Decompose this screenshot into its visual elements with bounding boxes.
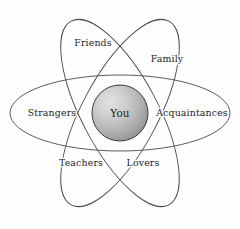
orbit-label-teachers: Teachers <box>59 157 103 168</box>
orbit-label-acquaintances: Acquaintances <box>155 107 228 118</box>
atom-orbit-illustration: You Friends Family Strangers Acquaintanc… <box>0 0 240 229</box>
orbit-diagram-canvas: You Friends Family Strangers Acquaintanc… <box>0 0 240 229</box>
orbit-label-strangers: Strangers <box>28 107 77 118</box>
nucleus-label-you: You <box>109 107 130 119</box>
orbit-label-family: Family <box>151 53 184 64</box>
orbit-label-friends: Friends <box>74 37 111 48</box>
orbit-label-lovers: Lovers <box>127 157 160 168</box>
